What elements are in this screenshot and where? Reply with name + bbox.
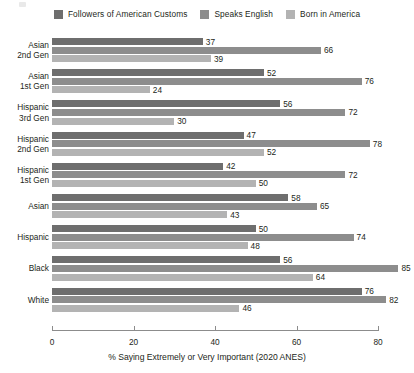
axis-tick-label: 20: [129, 337, 138, 347]
bar[interactable]: [52, 234, 354, 241]
category-label-line: 1st Gen: [0, 175, 49, 185]
bar-stack: 427250: [52, 163, 414, 187]
bar[interactable]: [52, 163, 223, 170]
bar-row: 42: [52, 163, 414, 170]
category-label: Asian1st Gen: [0, 71, 49, 91]
bar-value-label: 24: [150, 85, 162, 95]
legend-item-0[interactable]: Followers of American Customs: [54, 9, 188, 19]
chart-legend: Followers of American CustomsSpeaks Engl…: [0, 9, 414, 19]
bar[interactable]: [52, 86, 150, 93]
bar[interactable]: [52, 265, 398, 272]
bar[interactable]: [52, 55, 211, 62]
bar-row: 56: [52, 256, 414, 263]
bar-row: 72: [52, 171, 414, 178]
category-label-line: Black: [0, 263, 49, 273]
bar-value-label: 66: [321, 45, 333, 55]
axis-tick-label: 0: [50, 337, 55, 347]
bar-row: 43: [52, 211, 414, 218]
grouped-bar-chart: Followers of American CustomsSpeaks Engl…: [0, 0, 414, 373]
bar[interactable]: [52, 118, 174, 125]
bar-value-label: 37: [203, 37, 215, 47]
bar[interactable]: [52, 305, 239, 312]
bar-row: 76: [52, 78, 414, 85]
bar-value-label: 72: [345, 107, 357, 117]
bar[interactable]: [52, 171, 345, 178]
bar-group: Hispanic3rd Gen567230: [0, 100, 414, 124]
bar-stack: 376639: [52, 38, 414, 62]
legend-label: Followers of American Customs: [68, 9, 188, 19]
bar-value-label: 72: [345, 170, 357, 180]
bar[interactable]: [52, 242, 248, 249]
category-label-line: White: [0, 295, 49, 305]
category-label-line: Hispanic: [0, 232, 49, 242]
bar-value-label: 58: [288, 193, 300, 203]
category-label-line: 2nd Gen: [0, 50, 49, 60]
bar[interactable]: [52, 100, 280, 107]
category-label-line: 3rd Gen: [0, 112, 49, 122]
bar[interactable]: [52, 109, 345, 116]
bar[interactable]: [52, 149, 264, 156]
bar[interactable]: [52, 194, 288, 201]
bar-value-label: 78: [370, 139, 382, 149]
bar[interactable]: [52, 256, 280, 263]
bar[interactable]: [52, 274, 313, 281]
bar-stack: 568564: [52, 256, 414, 280]
legend-swatch-icon: [200, 10, 209, 19]
legend-label: Born in America: [300, 9, 360, 19]
bar[interactable]: [52, 69, 264, 76]
bar-row: 82: [52, 296, 414, 303]
bar-stack: 567230: [52, 100, 414, 124]
bar-row: 52: [52, 69, 414, 76]
bar-row: 65: [52, 203, 414, 210]
bar-value-label: 43: [227, 210, 239, 220]
bar-value-label: 82: [386, 295, 398, 305]
category-label-line: Asian: [0, 40, 49, 50]
bar-value-label: 47: [244, 130, 256, 140]
plot-area: Asian2nd Gen376639Asian1st Gen527624Hisp…: [0, 36, 414, 321]
bar[interactable]: [52, 180, 256, 187]
bar-value-label: 42: [223, 161, 235, 171]
bar-row: 39: [52, 55, 414, 62]
bar-row: 46: [52, 305, 414, 312]
bar-row: 85: [52, 265, 414, 272]
x-axis: 020406080: [52, 330, 378, 331]
bar-row: 48: [52, 242, 414, 249]
bar-value-label: 76: [362, 286, 374, 296]
bar[interactable]: [52, 78, 362, 85]
category-label-line: Asian: [0, 71, 49, 81]
bar-value-label: 50: [256, 224, 268, 234]
axis-tick-label: 80: [373, 337, 382, 347]
bar-group: Hispanic1st Gen427250: [0, 163, 414, 187]
bar-value-label: 48: [248, 241, 260, 251]
bar[interactable]: [52, 47, 321, 54]
bar-row: 47: [52, 132, 414, 139]
bar[interactable]: [52, 296, 386, 303]
category-label: Hispanic3rd Gen: [0, 102, 49, 122]
bar[interactable]: [52, 140, 370, 147]
bar-value-label: 30: [174, 116, 186, 126]
bar-value-label: 56: [280, 255, 292, 265]
bar[interactable]: [52, 211, 227, 218]
axis-tick: [134, 326, 135, 331]
bar-row: 74: [52, 234, 414, 241]
bar[interactable]: [52, 288, 362, 295]
bar[interactable]: [52, 225, 256, 232]
bar-row: 58: [52, 194, 414, 201]
legend-item-1[interactable]: Speaks English: [200, 9, 273, 19]
axis-tick: [215, 326, 216, 331]
bar-value-label: 56: [280, 99, 292, 109]
bar[interactable]: [52, 203, 317, 210]
bar-row: 64: [52, 274, 414, 281]
bar-row: 50: [52, 180, 414, 187]
bar[interactable]: [52, 132, 244, 139]
bar-value-label: 50: [256, 178, 268, 188]
bar-stack: 507448: [52, 225, 414, 249]
bar-row: 37: [52, 38, 414, 45]
legend-item-2[interactable]: Born in America: [286, 9, 360, 19]
bar-group: Black568564: [0, 256, 414, 280]
category-label: Black: [0, 263, 49, 273]
x-axis-title: % Saying Extremely or Very Important (20…: [0, 352, 414, 362]
axis-tick: [297, 326, 298, 331]
bar-group: Hispanic507448: [0, 225, 414, 249]
bar[interactable]: [52, 38, 203, 45]
